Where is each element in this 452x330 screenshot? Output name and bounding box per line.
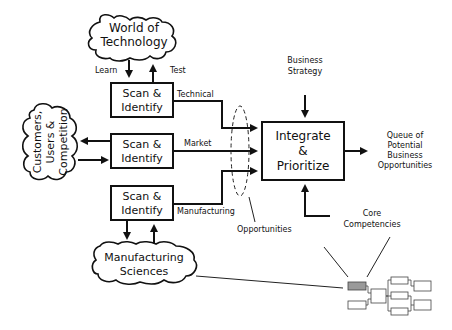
queue-label: Potential	[387, 141, 422, 150]
box-line: Prioritize	[277, 159, 330, 173]
cloud-line: Users &	[44, 120, 57, 163]
core-competencies-label: Competencies	[343, 220, 400, 229]
scan-identify-box-market: Scan & Identify	[111, 134, 173, 168]
competencies-pointer-line	[367, 237, 390, 277]
cloud-line: Technology	[99, 35, 167, 49]
business-strategy-label: Strategy	[288, 67, 323, 76]
opportunities-pointer-line	[324, 247, 348, 277]
manufacturing-pointer-line	[196, 276, 343, 288]
box-line: Scan &	[123, 190, 162, 203]
technical-label: Technical	[176, 90, 214, 99]
innovation-process-diagram: World of Technology Learn Test Scan & Id…	[0, 0, 452, 330]
cloud-line: Competition	[57, 108, 70, 175]
opportunities-label: Opportunities	[237, 225, 292, 234]
cloud-line: Sciences	[120, 265, 169, 278]
box-line: Identify	[121, 204, 163, 217]
business-strategy-label: Business	[287, 56, 322, 65]
manufacturing-sciences-cloud: Manufacturing Sciences	[92, 242, 196, 284]
test-label: Test	[169, 66, 186, 75]
box-line: Identify	[121, 152, 163, 165]
world-of-technology-cloud: World of Technology	[89, 15, 176, 61]
box-line: Identify	[121, 101, 163, 114]
technical-flow-line	[173, 101, 256, 128]
mini-flowchart-thumbnail	[348, 277, 431, 315]
core-competencies-label: Core	[363, 209, 382, 218]
manufacturing-label: Manufacturing	[177, 207, 235, 216]
cloud-line: Customers,	[31, 111, 44, 174]
queue-label: Queue of	[387, 131, 424, 140]
highlighted-node	[348, 282, 366, 290]
customers-users-competition-cloud: Customers, Users & Competition	[23, 104, 78, 180]
market-label: Market	[184, 139, 212, 148]
scan-identify-box-technical: Scan & Identify	[111, 83, 173, 117]
queue-label: Business	[387, 151, 422, 160]
box-line: Scan &	[123, 87, 162, 100]
box-line: Integrate	[275, 129, 330, 143]
scan-identify-box-manufacturing: Scan & Identify	[111, 186, 173, 220]
box-line: Scan &	[123, 138, 162, 151]
queue-label: Opportunities	[378, 161, 433, 170]
competencies-arrow	[305, 186, 330, 216]
box-line: &	[298, 144, 307, 158]
opportunities-pointer	[249, 197, 255, 222]
cloud-line: Manufacturing	[104, 251, 184, 264]
cloud-line: World of	[109, 21, 160, 35]
manufacturing-flow-line	[173, 171, 256, 204]
integrate-prioritize-box: Integrate & Prioritize	[262, 122, 344, 180]
learn-label: Learn	[95, 66, 117, 75]
